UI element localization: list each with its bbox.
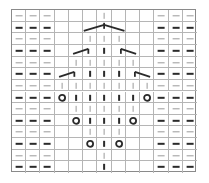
purl-light-icon	[12, 80, 25, 91]
purl-bold-icon	[183, 115, 197, 126]
knit-light-icon	[126, 103, 139, 114]
purl-light-icon	[26, 150, 39, 161]
purl-light-icon	[169, 80, 182, 91]
purl-bold-icon	[183, 92, 197, 103]
right-dec-icon	[126, 45, 139, 56]
purl-light-icon	[169, 33, 182, 44]
yarn-over-icon	[83, 138, 96, 149]
knit-light-icon	[69, 57, 82, 68]
chart-cell	[55, 150, 69, 162]
yarn-over-icon	[55, 92, 68, 103]
knit-light-icon	[97, 80, 110, 91]
chart-cell	[55, 161, 69, 173]
chart-cell	[69, 22, 83, 34]
right-dec-icon	[140, 68, 153, 79]
chart-cell	[112, 22, 126, 34]
chart-cell	[169, 80, 183, 92]
chart-cell	[69, 10, 83, 22]
chart-cell	[154, 103, 168, 115]
chart-cell	[12, 68, 26, 80]
chart-cell	[55, 126, 69, 138]
chart-cell	[97, 45, 111, 57]
purl-bold-icon	[169, 22, 182, 33]
purl-bold-icon	[40, 22, 53, 33]
chart-cell	[69, 138, 83, 150]
chart-cell	[55, 57, 69, 69]
chart-cell	[154, 138, 168, 150]
chart-cell	[55, 103, 69, 115]
purl-light-icon	[154, 150, 167, 161]
chart-cell	[112, 68, 126, 80]
chart-cell	[112, 161, 126, 173]
chart-cell	[140, 138, 154, 150]
chart-cell	[154, 92, 168, 104]
left-dec-icon	[69, 45, 82, 56]
chart-cell	[126, 150, 140, 162]
knit-light-icon	[112, 126, 125, 137]
knit-light-icon	[97, 126, 110, 137]
purl-light-icon	[26, 57, 39, 68]
purl-light-icon	[169, 103, 182, 114]
chart-cell	[12, 22, 26, 34]
chart-cell	[12, 80, 26, 92]
chart-cell	[169, 10, 183, 22]
chart-cell	[140, 80, 154, 92]
knit-light-icon	[112, 33, 125, 44]
chart-cell	[83, 45, 97, 57]
chart-cell	[83, 10, 97, 22]
chart-cell	[169, 150, 183, 162]
knit-light-icon	[69, 80, 82, 91]
purl-light-icon	[183, 150, 197, 161]
chart-cell	[26, 115, 40, 127]
purl-light-icon	[12, 150, 25, 161]
purl-light-icon	[183, 33, 197, 44]
knit-light-icon	[83, 33, 96, 44]
chart-cell	[140, 150, 154, 162]
purl-light-icon	[154, 10, 167, 21]
purl-bold-icon	[169, 115, 182, 126]
chart-cell	[126, 115, 140, 127]
chart-cell	[97, 80, 111, 92]
chart-cell	[154, 115, 168, 127]
knit-light-icon	[112, 80, 125, 91]
chart-cell	[126, 45, 140, 57]
chart-cell	[55, 115, 69, 127]
purl-bold-icon	[169, 138, 182, 149]
chart-cell	[169, 68, 183, 80]
chart-cell	[97, 115, 111, 127]
knitting-chart-grid	[11, 9, 196, 172]
chart-cell	[126, 57, 140, 69]
purl-bold-icon	[183, 138, 197, 149]
chart-cell	[40, 33, 54, 45]
chart-cell	[169, 138, 183, 150]
purl-light-icon	[40, 150, 53, 161]
purl-light-icon	[26, 126, 39, 137]
purl-bold-icon	[26, 22, 39, 33]
purl-light-icon	[154, 57, 167, 68]
purl-bold-icon	[26, 45, 39, 56]
chart-cell	[97, 138, 111, 150]
chart-cell	[154, 126, 168, 138]
purl-light-icon	[40, 103, 53, 114]
chart-cell	[154, 150, 168, 162]
purl-bold-icon	[183, 161, 197, 173]
knit-light-icon	[83, 103, 96, 114]
purl-light-icon	[12, 57, 25, 68]
chart-cell	[26, 22, 40, 34]
chart-cell	[97, 150, 111, 162]
knit-bold-icon	[112, 92, 125, 103]
purl-bold-icon	[154, 22, 167, 33]
chart-cell	[97, 33, 111, 45]
purl-light-icon	[26, 103, 39, 114]
chart-cell	[97, 68, 111, 80]
knit-bold-icon	[69, 92, 82, 103]
chart-cell	[169, 57, 183, 69]
chart-cell	[140, 22, 154, 34]
chart-cell	[112, 103, 126, 115]
purl-light-icon	[183, 103, 197, 114]
purl-bold-icon	[12, 22, 25, 33]
chart-cell	[12, 10, 26, 22]
knit-light-icon	[112, 103, 125, 114]
chart-cell	[97, 103, 111, 115]
left-dec-icon	[55, 68, 68, 79]
